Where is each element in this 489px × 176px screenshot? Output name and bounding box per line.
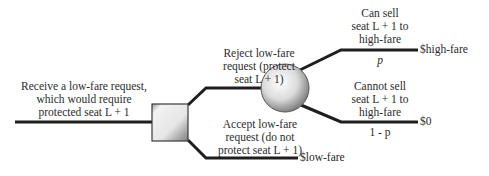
decision-node-square xyxy=(152,104,188,141)
can-sell-probability: p xyxy=(340,54,420,67)
reject-edge xyxy=(188,88,262,105)
accept-payoff: $low-fare xyxy=(300,151,345,164)
cannot-sell-payoff: $0 xyxy=(420,115,432,128)
cannot-sell-label: Cannot sell seat L + 1 to high-fare xyxy=(340,80,420,119)
root-label: Receive a low-fare request, which would … xyxy=(18,80,150,119)
can-sell-payoff: $high-fare xyxy=(420,43,468,56)
can-sell-label: Can sell seat L + 1 to high-fare xyxy=(340,7,420,46)
reject-branch-label: Reject low-fare request (protect seat L … xyxy=(203,47,315,86)
accept-branch-label: Accept low-fare request (do not protect … xyxy=(205,118,315,157)
cannot-sell-probability: 1 - p xyxy=(340,126,420,139)
